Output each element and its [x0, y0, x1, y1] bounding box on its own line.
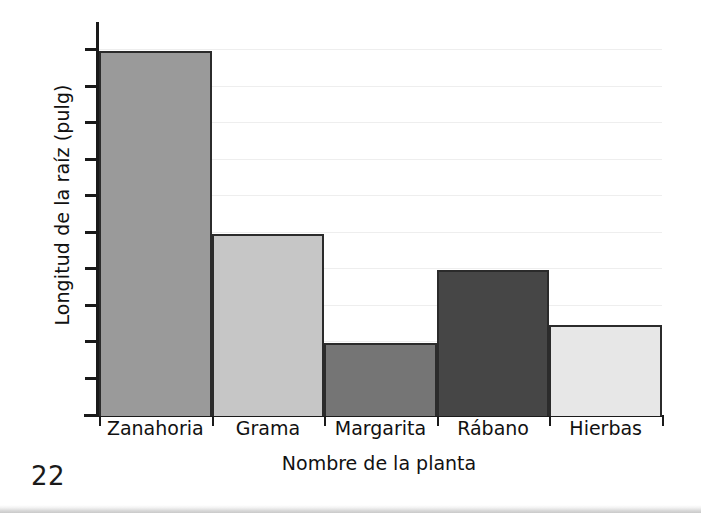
y-axis-tick [85, 231, 99, 234]
page-number: 22 [31, 461, 65, 491]
bar-grama [212, 234, 325, 416]
x-axis-label-zanahoria: Zanahoria [99, 417, 212, 439]
y-axis-tick [85, 194, 99, 197]
x-axis-title: Nombre de la planta [96, 452, 662, 474]
x-axis-labels: ZanahoriaGramaMargaritaRábanoHierbas [99, 417, 661, 447]
x-axis-label-hierbas: Hierbas [549, 417, 662, 439]
page-bottom-edge [0, 505, 701, 513]
bar-hierbas [549, 325, 662, 416]
bar-rbano [437, 270, 550, 416]
y-axis-tick [85, 158, 99, 161]
bar-series [99, 22, 662, 416]
y-axis-tick [85, 377, 99, 380]
y-axis-tick [85, 304, 99, 307]
x-axis-label-rbano: Rábano [437, 417, 550, 439]
y-axis-tick [85, 121, 99, 124]
y-axis-title: Longitud de la raíz (pulg) [51, 25, 73, 385]
x-axis-label-margarita: Margarita [324, 417, 437, 439]
y-axis-tick [85, 85, 99, 88]
y-axis-tick [85, 267, 99, 270]
y-axis-tick [85, 340, 99, 343]
x-axis-label-grama: Grama [212, 417, 325, 439]
page-canvas: Longitud de la raíz (pulg) ZanahoriaGram… [0, 0, 701, 513]
bar-zanahoria [99, 51, 212, 416]
x-axis-tick [662, 415, 664, 426]
plot-area [96, 22, 662, 416]
bar-margarita [324, 343, 437, 416]
y-axis-tick [85, 48, 99, 51]
